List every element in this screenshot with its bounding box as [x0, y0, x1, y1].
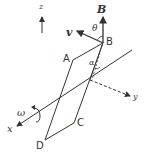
y-axis-label: y [133, 93, 138, 101]
corner-b-label: B [106, 37, 113, 47]
corner-c-label: C [77, 118, 84, 128]
x-axis-label: x [7, 124, 13, 134]
velocity-arrow [77, 31, 103, 43]
diagram-canvas [0, 0, 144, 158]
corner-d-label: D [36, 141, 44, 151]
y-axis-arrow [90, 80, 130, 96]
rotation-axis-line [17, 50, 132, 126]
omega-label: ω [17, 108, 25, 118]
theta-label: θ [92, 24, 97, 33]
corner-a-label: A [63, 54, 70, 64]
loop-abcd [45, 43, 103, 140]
alpha-arc [95, 67, 100, 69]
z-axis-label: z [39, 3, 43, 11]
velocity-label: v [66, 27, 72, 38]
b-field-label: B [97, 4, 106, 15]
omega-arrowhead [31, 105, 35, 110]
theta-arc [97, 36, 103, 40]
alpha-label: α [89, 59, 94, 67]
